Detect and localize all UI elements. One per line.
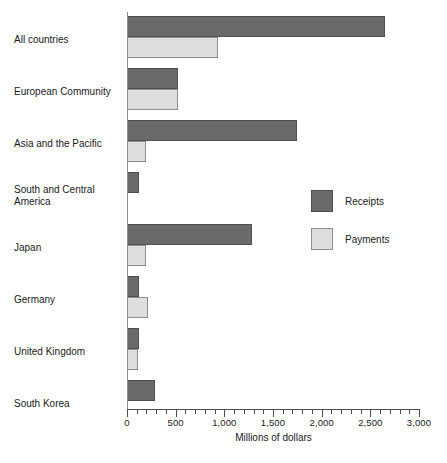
legend-item-receipts: Receipts [311,190,389,212]
category-label: Japan [14,242,124,254]
x-tick-minor [185,410,186,414]
x-tick-minor [400,410,401,414]
x-tick-major [370,410,371,417]
x-tick-label: 2,000 [310,417,334,428]
x-tick-label: 2,500 [358,417,382,428]
category-label: European Community [14,86,124,98]
x-tick-minor [146,410,147,414]
x-tick-minor [215,410,216,414]
x-tick-minor [331,410,332,414]
bar-chart: All countriesEuropean CommunityAsia and … [0,0,447,463]
x-tick-major [224,410,225,417]
x-tick-minor [312,410,313,414]
legend-label-payments: Payments [345,234,389,245]
x-tick-minor [302,410,303,414]
x-tick-label: 3,000 [407,417,431,428]
x-tick-minor [156,410,157,414]
x-tick-minor [351,410,352,414]
x-tick-minor [244,410,245,414]
x-tick-major [419,410,420,417]
x-axis-title: Millions of dollars [127,432,420,443]
bar-payments [127,349,138,370]
x-tick-minor [292,410,293,414]
bar-payments [127,37,218,58]
bar-receipts [127,328,139,349]
bar-payments [127,89,178,110]
bar-receipts [127,380,155,401]
x-tick-minor [137,410,138,414]
category-label: Asia and the Pacific [14,138,124,150]
x-tick-major [273,410,274,417]
x-tick-label: 1,000 [212,417,236,428]
x-tick-minor [166,410,167,414]
legend-label-receipts: Receipts [345,196,384,207]
x-tick-minor [205,410,206,414]
x-tick-major [322,410,323,417]
x-tick-minor [195,410,196,414]
x-tick-minor [361,410,362,414]
x-tick-label: 1,500 [261,417,285,428]
x-tick-minor [283,410,284,414]
legend-swatch-receipts-icon [311,190,333,212]
category-label: United Kingdom [14,346,124,358]
legend-swatch-payments-icon [311,228,333,250]
bar-payments [127,141,146,162]
category-label: South Korea [14,398,124,410]
x-tick-label: 500 [168,417,184,428]
bar-payments [127,245,146,266]
bar-receipts [127,172,139,193]
bar-payments [127,297,148,318]
x-tick-minor [390,410,391,414]
legend-item-payments: Payments [311,228,389,250]
x-tick-major [127,410,128,417]
category-label: South and Central America [14,184,124,207]
category-label: All countries [14,34,124,46]
bar-receipts [127,120,297,141]
bar-receipts [127,16,385,37]
x-tick-major [176,410,177,417]
x-tick-minor [409,410,410,414]
y-axis-line [127,12,128,410]
x-tick-minor [234,410,235,414]
x-tick-label: 0 [124,417,129,428]
x-tick-minor [341,410,342,414]
category-label: Germany [14,294,124,306]
x-tick-minor [263,410,264,414]
bar-receipts [127,224,252,245]
legend: Receipts Payments [311,190,389,266]
bar-receipts [127,68,178,89]
bar-receipts [127,276,139,297]
x-tick-minor [254,410,255,414]
x-tick-minor [380,410,381,414]
